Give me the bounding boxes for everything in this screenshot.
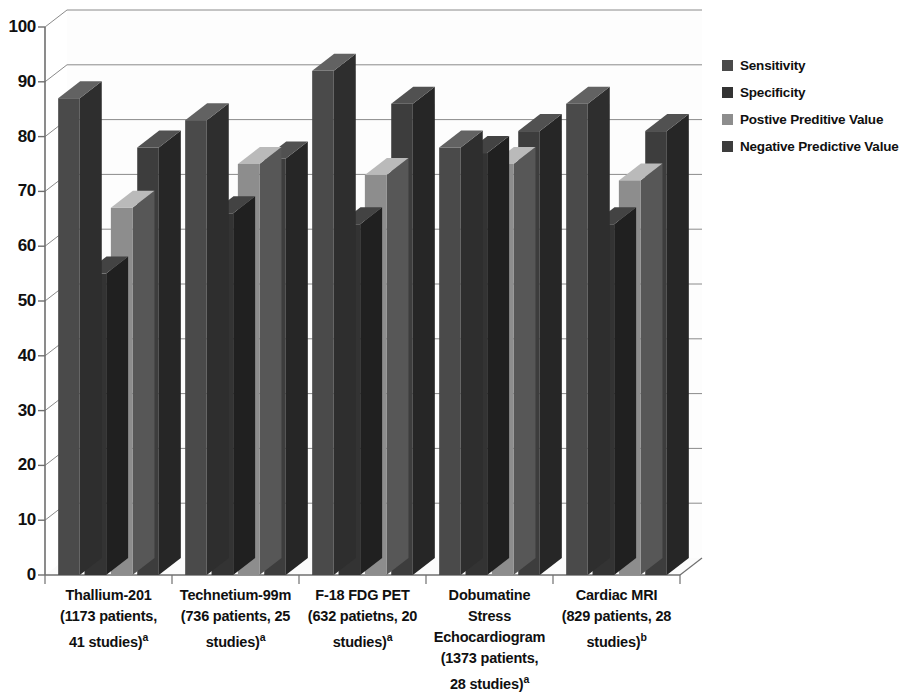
bar [0,0,921,691]
bar-3d-body [0,0,921,691]
bar-chart: 1009080706050403020100 Thallium-201(1173… [0,0,921,691]
bars-layer [0,0,921,691]
